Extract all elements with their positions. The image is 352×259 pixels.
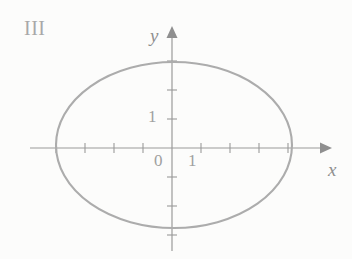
y-axis-arrowhead bbox=[167, 26, 178, 38]
y-axis-label: y bbox=[150, 26, 158, 45]
y-axis-unit-label: 1 bbox=[148, 108, 157, 125]
origin-label: 0 bbox=[154, 152, 163, 169]
coordinate-plot-svg bbox=[0, 0, 352, 259]
figure-container: III y x 0 1 1 bbox=[0, 0, 352, 259]
x-axis-unit-label: 1 bbox=[188, 152, 197, 169]
x-axis-arrowhead bbox=[320, 143, 332, 154]
panel-label: III bbox=[24, 18, 45, 38]
ellipse-curve bbox=[56, 62, 292, 228]
x-axis-label: x bbox=[328, 160, 336, 179]
